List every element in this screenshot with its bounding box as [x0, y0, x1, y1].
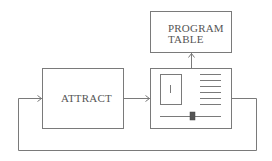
panel-list-lines	[200, 75, 221, 105]
slider-knob	[190, 112, 195, 120]
program-table-label-line2: TABLE	[168, 34, 204, 45]
diagram-canvas	[0, 0, 272, 161]
flow-diagram: ATTRACT PROGRAM TABLE	[0, 0, 272, 161]
attract-label: ATTRACT	[61, 93, 112, 104]
loop-back-arrow	[19, 99, 257, 151]
